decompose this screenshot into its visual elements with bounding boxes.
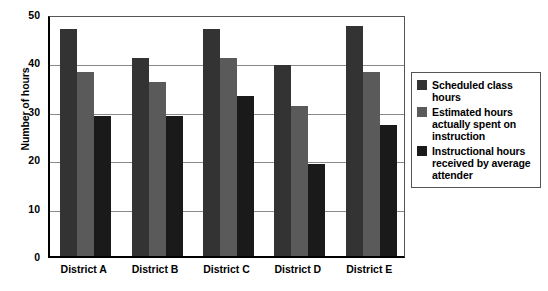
legend-item: Instructional hours received by average … (415, 145, 536, 181)
y-axis-tick-label: 20 (12, 155, 40, 166)
bar (274, 65, 291, 256)
legend-swatch-icon (417, 107, 427, 117)
legend-swatch-icon (417, 146, 427, 156)
bar (166, 116, 183, 256)
y-axis-tick-label: 40 (12, 58, 40, 69)
legend-item: Scheduled class hours (415, 79, 536, 103)
bar (203, 29, 220, 256)
bar (132, 58, 149, 256)
y-axis-tick-label: 10 (12, 204, 40, 215)
bar-group (203, 17, 254, 256)
legend-item: Estimated hours actually spent on instru… (415, 106, 536, 142)
bar-group (346, 17, 397, 256)
x-axis-tick-label: District E (334, 263, 405, 275)
bar-group (132, 17, 183, 256)
bar (291, 106, 308, 256)
bar (149, 82, 166, 256)
bar (237, 96, 254, 256)
bar-group (60, 17, 111, 256)
bar (363, 72, 380, 256)
legend-swatch-icon (417, 80, 427, 90)
bar-chart: Number of hours 01020304050 District ADi… (0, 0, 548, 291)
x-axis-tick-label: District C (191, 263, 262, 275)
chart-legend: Scheduled class hours Estimated hours ac… (411, 72, 541, 188)
x-axis-tick-label: District D (262, 263, 333, 275)
bar (220, 58, 237, 256)
bar (308, 164, 325, 256)
y-axis-tick-label: 30 (12, 107, 40, 118)
x-axis-tick-label: District A (48, 263, 119, 275)
y-axis-tick-label: 50 (12, 10, 40, 21)
bar (346, 26, 363, 256)
legend-item-label: Estimated hours actually spent on instru… (432, 106, 536, 142)
bar (60, 29, 77, 256)
bar (94, 116, 111, 256)
bar (380, 125, 397, 256)
bar-group (274, 17, 325, 256)
y-axis-tick-label: 0 (12, 252, 40, 263)
legend-item-label: Scheduled class hours (432, 79, 536, 103)
x-axis-tick-label: District B (119, 263, 190, 275)
legend-item-label: Instructional hours received by average … (432, 145, 536, 181)
bar (77, 72, 94, 256)
plot-area (48, 16, 405, 258)
